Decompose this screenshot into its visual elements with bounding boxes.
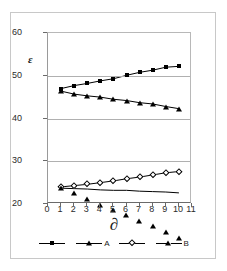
- y-tick-mark: [43, 32, 47, 33]
- x-tick-mark: [165, 203, 166, 207]
- y-tick-mark: [43, 160, 47, 161]
- filled-triangle-marker: [137, 100, 143, 105]
- legend-swatch: [156, 239, 182, 248]
- y-tick-mark: [43, 118, 47, 119]
- gridline: [48, 119, 190, 120]
- y-tick-label: 20: [0, 199, 22, 208]
- plot-area: [47, 32, 191, 203]
- series-line: [61, 91, 179, 109]
- x-tick-mark: [112, 203, 113, 207]
- filled-square-marker: [111, 77, 115, 81]
- x-tick-mark: [86, 203, 87, 207]
- series-line: [61, 172, 179, 187]
- chart-figure: ε 2030405060 01234567891011 ∂ AB: [10, 12, 216, 259]
- open-triangle-marker: [84, 197, 90, 202]
- x-tick-mark: [99, 203, 100, 207]
- x-tick-mark: [178, 203, 179, 207]
- y-axis-title: ε: [28, 53, 33, 65]
- y-tick-label: 40: [0, 114, 22, 123]
- x-tick-mark: [47, 203, 48, 207]
- filled-square-marker: [85, 81, 89, 85]
- legend-entry[interactable]: A: [76, 239, 109, 248]
- filled-triangle-marker: [86, 241, 92, 246]
- x-axis-title: ∂: [11, 216, 217, 233]
- legend-entry[interactable]: [39, 239, 67, 248]
- filled-square-marker: [125, 73, 129, 77]
- filled-triangle-marker: [150, 101, 156, 106]
- x-tick-mark: [152, 203, 153, 207]
- y-tick-mark: [43, 75, 47, 76]
- legend-swatch: [119, 239, 145, 248]
- y-tick-label: 30: [0, 156, 22, 165]
- filled-triangle-marker: [176, 106, 182, 111]
- legend-entry[interactable]: B: [156, 239, 189, 248]
- y-tick-label: 60: [0, 28, 22, 37]
- x-tick-mark: [126, 203, 127, 207]
- gridline: [48, 161, 190, 162]
- open-triangle-marker: [58, 186, 64, 191]
- series-line: [61, 66, 179, 88]
- x-tick-mark: [139, 203, 140, 207]
- legend-swatch: [39, 239, 65, 248]
- filled-square-marker: [72, 84, 76, 88]
- series-line: [61, 188, 179, 193]
- filled-square-marker: [50, 241, 54, 245]
- legend-entry[interactable]: [119, 239, 147, 248]
- filled-square-marker: [164, 65, 168, 69]
- filled-square-marker: [151, 68, 155, 72]
- filled-triangle-marker: [163, 104, 169, 109]
- filled-triangle-marker: [97, 95, 103, 100]
- legend-swatch: [76, 239, 102, 248]
- filled-square-marker: [138, 70, 142, 74]
- chart-legend: AB: [11, 239, 217, 248]
- filled-triangle-marker: [124, 98, 130, 103]
- filled-square-marker: [177, 64, 181, 68]
- open-diamond-marker: [128, 239, 136, 247]
- open-triangle-marker: [166, 241, 172, 246]
- legend-label: A: [104, 240, 109, 248]
- x-tick-mark: [191, 203, 192, 207]
- x-tick-mark: [60, 203, 61, 207]
- open-triangle-marker: [71, 191, 77, 196]
- y-tick-label: 50: [0, 71, 22, 80]
- legend-label: B: [184, 240, 189, 248]
- filled-triangle-marker: [71, 92, 77, 97]
- gridline: [48, 76, 190, 77]
- filled-triangle-marker: [58, 89, 64, 94]
- x-tick-mark: [73, 203, 74, 207]
- filled-triangle-marker: [84, 93, 90, 98]
- filled-square-marker: [98, 79, 102, 83]
- filled-triangle-marker: [110, 97, 116, 102]
